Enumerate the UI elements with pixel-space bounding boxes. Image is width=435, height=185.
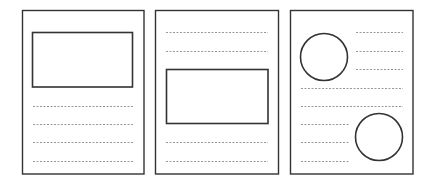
page-thumbnail-layout-image-middle (156, 11, 279, 175)
page-frame (23, 11, 145, 175)
page-thumbnail-layout-image-top (23, 11, 145, 175)
layout-diagram (0, 0, 435, 185)
page-frame (156, 11, 279, 175)
page-frame (291, 11, 414, 175)
page-thumbnail-layout-circles (291, 11, 414, 175)
